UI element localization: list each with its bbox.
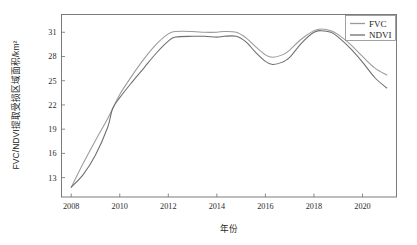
y-tick-label: 25	[48, 77, 56, 86]
y-tick-label: 19	[48, 125, 56, 134]
x-axis-title: 年份	[220, 223, 238, 234]
x-tick-label: 2008	[63, 202, 79, 211]
x-tick-label: 2018	[306, 202, 322, 211]
y-axis-title: FVC/NDVI提取受损区域面积/km²	[10, 40, 21, 169]
y-tick-label: 28	[48, 52, 56, 61]
x-tick-label: 2014	[209, 202, 225, 211]
x-tick-label: 2016	[257, 202, 273, 211]
chart-legend: FVCNDVI	[346, 16, 396, 41]
y-tick-label: 22	[48, 101, 56, 110]
x-tick-label: 2012	[160, 202, 176, 211]
y-tick-label: 16	[48, 149, 56, 158]
legend-label-fvc: FVC	[369, 19, 387, 29]
line-chart: 2008201020122014201620182020 13161922252…	[0, 0, 417, 245]
x-tick-label: 2020	[354, 202, 370, 211]
chart-figure: 2008201020122014201620182020 13161922252…	[0, 0, 417, 245]
y-tick-label: 31	[48, 28, 56, 37]
y-tick-label: 13	[48, 174, 56, 183]
legend-label-ndvi: NDVI	[369, 30, 392, 40]
x-tick-label: 2010	[112, 202, 128, 211]
